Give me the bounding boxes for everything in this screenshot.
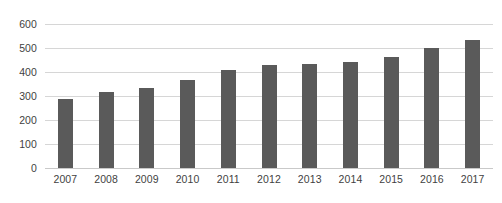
x-axis-tick-label: 2009 <box>135 173 159 185</box>
bar <box>302 64 317 168</box>
gridline-0 <box>45 168 493 169</box>
x-axis-tick-label: 2013 <box>298 173 322 185</box>
x-axis-tick-label: 2014 <box>339 173 363 185</box>
x-axis-tick-label: 2016 <box>420 173 444 185</box>
bar <box>139 88 154 168</box>
y-axis-tick-label: 200 <box>19 114 37 126</box>
bar <box>58 99 73 168</box>
y-axis-tick-label: 600 <box>19 18 37 30</box>
y-axis: 0100200300400500600 <box>0 0 45 203</box>
y-axis-tick-label: 400 <box>19 66 37 78</box>
bar-series <box>45 24 493 168</box>
y-axis-tick-label: 300 <box>19 90 37 102</box>
bar <box>221 70 236 168</box>
x-axis-tick-label: 2008 <box>94 173 118 185</box>
x-axis: 2007200820092010201120122013201420152016… <box>45 173 493 195</box>
y-axis-tick-label: 500 <box>19 42 37 54</box>
bar <box>180 80 195 168</box>
y-axis-tick-label: 100 <box>19 138 37 150</box>
x-axis-tick-label: 2011 <box>217 173 240 185</box>
bar <box>384 57 399 168</box>
x-axis-tick-label: 2010 <box>176 173 200 185</box>
plot-area <box>45 24 493 168</box>
y-axis-tick-label: 0 <box>31 162 37 174</box>
bar <box>262 65 277 168</box>
x-axis-tick-label: 2017 <box>461 173 485 185</box>
bar <box>424 48 439 168</box>
x-axis-tick-label: 2015 <box>379 173 403 185</box>
x-axis-tick-label: 2012 <box>257 173 281 185</box>
bar <box>343 62 358 168</box>
bar <box>99 92 114 168</box>
bar-chart: 0100200300400500600 20072008200920102011… <box>0 0 502 203</box>
x-axis-tick-label: 2007 <box>53 173 77 185</box>
bar <box>465 40 480 168</box>
